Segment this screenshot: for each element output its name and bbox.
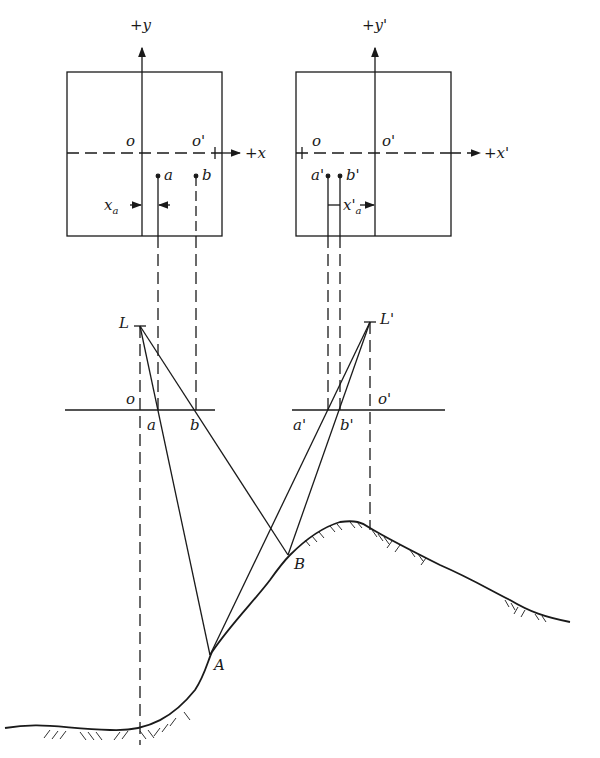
left-film-a-label: a: [147, 418, 156, 433]
left-film-b-label: b: [190, 418, 200, 433]
right-principal-point-label: o': [382, 134, 395, 149]
station-L-label: L: [119, 316, 129, 331]
right-x-axis-label: +x': [484, 146, 509, 161]
stereo-diagram: +y +x o o' a b xa +y' +x' o o' a' b' x'a…: [0, 0, 600, 758]
terrain-profile: [5, 521, 570, 730]
left-conjugate-point-label: o': [192, 134, 205, 149]
left-y-axis-label: +y: [130, 18, 151, 33]
right-y-axis-label: +y': [362, 18, 387, 33]
right-point-b-prime-label: b': [346, 168, 360, 183]
station-L-prime-label: L': [380, 312, 394, 327]
right-conjugate-point-label: o: [312, 134, 321, 149]
right-film-b-prime-label: b': [340, 418, 354, 433]
left-measure-label: xa: [104, 198, 118, 216]
ground-point-B-label: B: [294, 557, 305, 572]
right-measure-label: x'a: [343, 198, 362, 216]
ground-point-A-label: A: [214, 658, 225, 673]
measure-subscript: a: [112, 205, 118, 216]
left-principal-point-label: o: [126, 134, 135, 149]
right-film-a-prime-label: a': [293, 418, 306, 433]
measure-subscript: a: [356, 205, 362, 216]
left-film-o-label: o: [126, 392, 135, 407]
left-x-axis-label: +x: [245, 146, 266, 161]
diagram-lines: [0, 0, 600, 758]
right-film-o-prime-label: o': [378, 392, 391, 407]
left-point-a-label: a: [164, 168, 173, 183]
left-photo: [67, 48, 240, 236]
left-point-b-label: b: [202, 168, 212, 183]
light-rays: [140, 322, 370, 655]
measure-symbol: x': [343, 196, 356, 214]
right-point-a-prime-label: a': [311, 168, 324, 183]
